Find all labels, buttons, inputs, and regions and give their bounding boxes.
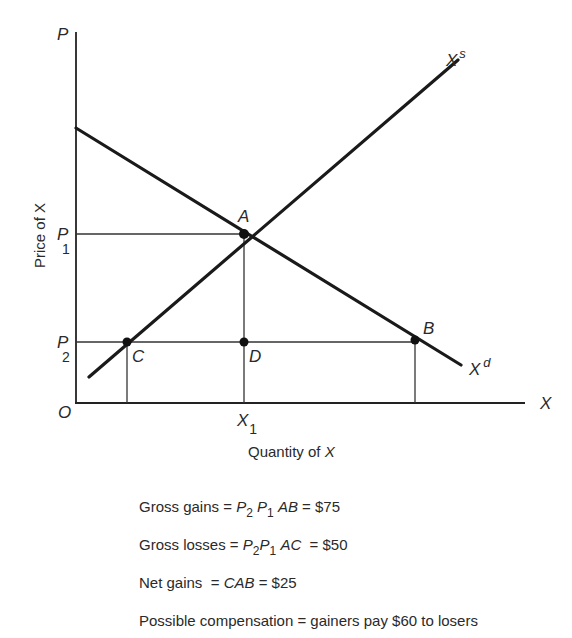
origin-label: O	[58, 403, 71, 422]
x-axis-title: Quantity of X	[248, 443, 336, 460]
point-d-label: D	[249, 347, 261, 366]
y-axis-title: Price of X	[31, 203, 48, 268]
p2-label: P2	[57, 333, 70, 365]
demand-curve	[76, 128, 461, 365]
point-c	[123, 338, 132, 347]
point-b	[411, 336, 420, 345]
gross-losses-line: Gross losses = P2P1 AC = $50	[139, 536, 348, 553]
supply-label: Xs	[445, 46, 466, 70]
x-axis-label: X	[539, 394, 552, 413]
curves	[76, 60, 461, 377]
demand-label: Xd	[468, 355, 491, 379]
gross-gains-line: Gross gains = P2 P1 AB = $75	[139, 498, 340, 515]
supply-demand-diagram: P X O Xs Xd P1 P2 X1 A B C D Price of X …	[0, 0, 572, 480]
point-a-label: A	[237, 207, 249, 226]
guide-lines	[76, 234, 415, 403]
p1-label: P1	[57, 225, 70, 257]
x1-label: X1	[236, 411, 257, 437]
p-axis-label: P	[57, 25, 69, 44]
labels: P X O Xs Xd P1 P2 X1 A B C D	[57, 25, 552, 437]
point-b-label: B	[423, 319, 434, 338]
compensation-line: Possible compensation = gainers pay $60 …	[139, 612, 478, 629]
point-a	[239, 229, 249, 239]
point-c-label: C	[132, 347, 145, 366]
net-gains-line: Net gains = CAB = $25	[139, 574, 297, 591]
point-d	[240, 338, 249, 347]
